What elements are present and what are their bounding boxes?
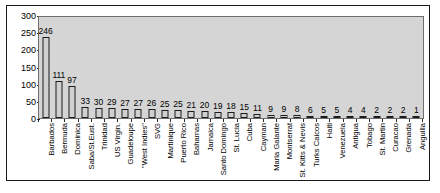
bar[interactable] xyxy=(95,108,102,118)
bar-value-label: 1 xyxy=(414,106,419,115)
bar-slot: 5 xyxy=(317,17,330,118)
bar[interactable] xyxy=(254,114,261,118)
x-axis: BarbadosBermudaDominicaSaba/St.Eust.Trin… xyxy=(38,119,424,185)
bar-slot: 2 xyxy=(370,17,383,118)
bar-slot: 8 xyxy=(291,17,304,118)
bar-slot: 20 xyxy=(198,17,211,118)
bar-slot: 33 xyxy=(79,17,92,118)
bar[interactable] xyxy=(188,111,195,118)
bar-slot: 19 xyxy=(211,17,224,118)
x-axis-category-label: Cayman xyxy=(260,123,268,151)
bar-value-label: 246 xyxy=(39,27,53,36)
bar[interactable] xyxy=(280,115,287,118)
bar[interactable] xyxy=(135,109,142,118)
bar-slot: 4 xyxy=(344,17,357,118)
bar-value-label: 18 xyxy=(226,102,235,111)
bar[interactable] xyxy=(42,37,49,118)
bar-slot: 9 xyxy=(264,17,277,118)
x-axis-tick-mark xyxy=(276,119,277,122)
bar[interactable] xyxy=(148,109,155,118)
bar[interactable] xyxy=(201,111,208,118)
x-axis-category-label: SVG xyxy=(154,123,162,139)
x-axis-category-label: Maria Galante xyxy=(273,123,281,171)
bar[interactable] xyxy=(214,112,221,118)
bar-value-label: 30 xyxy=(94,98,103,107)
bar[interactable] xyxy=(294,115,301,118)
bar-value-label: 29 xyxy=(107,98,116,107)
x-axis-category-label: "West Indies" xyxy=(141,123,149,168)
bar[interactable] xyxy=(82,107,89,118)
x-axis-category-label: Cuba xyxy=(246,123,254,141)
bar-value-label: 25 xyxy=(160,100,169,109)
bar-value-label: 26 xyxy=(147,99,156,108)
x-axis-tick-mark xyxy=(104,119,105,122)
bar-slot: 9 xyxy=(277,17,290,118)
x-axis-tick-mark xyxy=(369,119,370,122)
bar-slot: 18 xyxy=(224,17,237,118)
bar-value-label: 9 xyxy=(282,105,287,114)
bar-slot: 15 xyxy=(238,17,251,118)
y-axis-tick-label: 100 xyxy=(21,80,36,89)
bar[interactable] xyxy=(227,112,234,118)
x-axis-category-label: Grenada xyxy=(405,123,413,153)
bar-slot: 25 xyxy=(158,17,171,118)
bar[interactable] xyxy=(360,116,367,118)
bar[interactable] xyxy=(400,116,407,118)
x-axis-category-label: St. Kitts & Nevis xyxy=(299,123,307,177)
x-axis-tick-mark xyxy=(396,119,397,122)
bar-value-label: 8 xyxy=(295,105,300,114)
x-axis-category-label: Curacao xyxy=(392,123,400,152)
bar-slot: 27 xyxy=(118,17,131,118)
x-axis-tick-mark xyxy=(38,119,39,122)
bar[interactable] xyxy=(320,116,327,118)
y-axis-tick-label: 150 xyxy=(21,63,36,72)
x-axis-tick-mark xyxy=(290,119,291,122)
bar[interactable] xyxy=(69,86,76,118)
bar-value-label: 33 xyxy=(81,97,90,106)
y-axis-tick-label: 250 xyxy=(21,29,36,38)
y-axis-tick-label: 200 xyxy=(21,46,36,55)
bar-slot: 2 xyxy=(383,17,396,118)
x-axis-category-label: Haiti xyxy=(326,123,334,138)
bar-slot: 21 xyxy=(185,17,198,118)
chart-figure-frame: 050100150200250300 246111973330292727262… xyxy=(6,5,430,181)
bar[interactable] xyxy=(122,109,129,118)
bar-value-label: 11 xyxy=(253,104,262,113)
x-axis-tick-mark xyxy=(422,119,423,122)
bar-value-label: 6 xyxy=(308,106,313,115)
bar[interactable] xyxy=(108,108,115,118)
x-axis-category-label: Dominica xyxy=(74,123,82,155)
bar-value-label: 27 xyxy=(120,99,129,108)
bar-slot: 6 xyxy=(304,17,317,118)
plot-area: 2461119733302927272625252120191815119986… xyxy=(38,16,424,119)
bar[interactable] xyxy=(373,116,380,118)
bar[interactable] xyxy=(333,116,340,118)
bar-value-label: 111 xyxy=(52,71,65,80)
bar[interactable] xyxy=(55,81,62,118)
bar-slot: 2 xyxy=(397,17,410,118)
bar[interactable] xyxy=(175,110,182,118)
bar-value-label: 5 xyxy=(321,106,326,115)
bar-slot: 5 xyxy=(330,17,343,118)
x-axis-tick-mark xyxy=(329,119,330,122)
x-axis-category-label: Turks Caicos xyxy=(313,123,321,167)
bar-value-label: 5 xyxy=(335,106,340,115)
x-axis-category-label: Bermuda xyxy=(61,123,69,154)
bar[interactable] xyxy=(161,110,168,118)
bar-value-label: 4 xyxy=(348,106,353,115)
bar[interactable] xyxy=(386,116,393,118)
bar-value-label: 2 xyxy=(374,106,379,115)
y-axis-tick-label: 0 xyxy=(31,115,36,124)
y-axis-tick-label: 50 xyxy=(26,97,36,106)
bar[interactable] xyxy=(413,116,420,118)
y-axis-tick-label: 300 xyxy=(21,12,36,21)
x-axis-category-label: Martinique xyxy=(167,123,175,158)
x-axis-tick-mark xyxy=(409,119,410,122)
bar[interactable] xyxy=(267,115,274,118)
bar[interactable] xyxy=(307,116,314,118)
bar[interactable] xyxy=(347,116,354,118)
bar[interactable] xyxy=(241,113,248,118)
x-axis-category-label: Venezuela xyxy=(339,123,347,158)
bar-slot: 25 xyxy=(171,17,184,118)
x-axis-category-label: Bahamas xyxy=(193,123,201,155)
